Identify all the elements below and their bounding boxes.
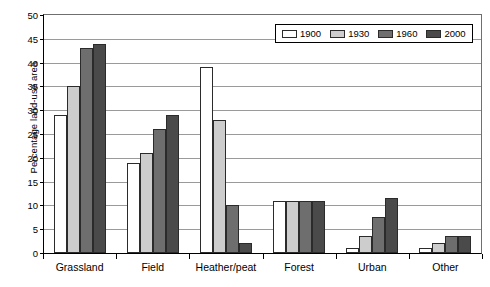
x-tick-mark (43, 254, 44, 259)
bar-1930-urban (359, 236, 372, 253)
legend-label-1930: 1930 (348, 28, 369, 39)
bar-group-grassland (44, 15, 117, 253)
legend-label-1900: 1900 (300, 28, 321, 39)
bar-1960-heather-peat (226, 205, 239, 253)
y-tick-label: 45 (27, 33, 38, 44)
bar-group-forest (262, 15, 335, 253)
bar-group-other (408, 15, 481, 253)
bar-2000-forest (312, 201, 325, 253)
bar-2000-heather-peat (239, 243, 252, 253)
y-tick-label: 5 (33, 224, 38, 235)
x-tick-mark (263, 254, 264, 259)
bar-1900-other (419, 248, 432, 253)
bar-1930-field (140, 153, 153, 253)
x-axis-ticks (43, 254, 482, 260)
y-tick-label: 35 (27, 81, 38, 92)
bar-1960-urban (372, 217, 385, 253)
bar-chart: Percentage land-use area 051015202530354… (0, 0, 490, 287)
bar-groups (44, 15, 481, 253)
legend-swatch-icon-2000 (426, 30, 441, 38)
bar-1930-heather-peat (213, 120, 226, 253)
bar-1900-grassland (54, 115, 67, 253)
x-axis-label-other: Other (409, 261, 482, 273)
x-tick-mark (336, 254, 337, 259)
y-tick-label: 40 (27, 57, 38, 68)
y-tick-label: 10 (27, 200, 38, 211)
legend-swatch-icon-1930 (330, 30, 345, 38)
bar-1960-forest (299, 201, 312, 253)
bar-1900-forest (273, 201, 286, 253)
legend-item-2000: 2000 (426, 28, 465, 39)
plot-area: 05101520253035404550 (43, 14, 482, 254)
legend: 1900193019602000 (275, 24, 473, 43)
bar-1930-other (432, 243, 445, 253)
bar-group-urban (335, 15, 408, 253)
y-tick-label: 50 (27, 10, 38, 21)
x-axis-label-grassland: Grassland (43, 261, 116, 273)
x-axis-label-heather-peat: Heather/peat (189, 261, 262, 273)
bar-2000-urban (385, 198, 398, 253)
y-tick-label: 25 (27, 129, 38, 140)
x-tick-mark (189, 254, 190, 259)
x-tick-mark (116, 254, 117, 259)
bar-2000-grassland (93, 44, 106, 253)
bar-1930-forest (286, 201, 299, 253)
legend-swatch-icon-1900 (282, 30, 297, 38)
y-tick-label: 30 (27, 105, 38, 116)
legend-label-1960: 1960 (396, 28, 417, 39)
y-tick-label: 0 (33, 248, 38, 259)
legend-item-1930: 1930 (330, 28, 369, 39)
bar-2000-field (166, 115, 179, 253)
bar-group-field (117, 15, 190, 253)
x-axis-labels: GrasslandFieldHeather/peatForestUrbanOth… (43, 261, 482, 273)
legend-item-1960: 1960 (378, 28, 417, 39)
x-axis-label-forest: Forest (263, 261, 336, 273)
legend-item-1900: 1900 (282, 28, 321, 39)
x-tick-mark (409, 254, 410, 259)
bar-1900-heather-peat (200, 67, 213, 253)
bar-1900-urban (346, 248, 359, 253)
bar-1960-field (153, 129, 166, 253)
legend-label-2000: 2000 (444, 28, 465, 39)
y-tick-label: 20 (27, 152, 38, 163)
bar-1960-other (445, 236, 458, 253)
x-axis-label-urban: Urban (336, 261, 409, 273)
bar-1900-field (127, 163, 140, 253)
x-tick-mark (482, 254, 483, 259)
y-tick-label: 15 (27, 176, 38, 187)
legend-swatch-icon-1960 (378, 30, 393, 38)
bar-group-heather-peat (190, 15, 263, 253)
bar-1930-grassland (67, 86, 80, 253)
bar-1960-grassland (80, 48, 93, 253)
bar-2000-other (458, 236, 471, 253)
x-axis-label-field: Field (116, 261, 189, 273)
